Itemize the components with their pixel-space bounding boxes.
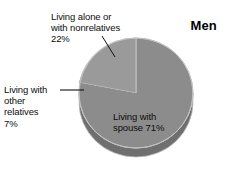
pie-label-living-alone: Living alone or with nonrelatives 22% bbox=[51, 11, 155, 45]
pie-chart-figure: Living alone or with nonrelatives 22% Li… bbox=[0, 0, 229, 173]
pie-label-living-with-spouse: Living with spouse 71% bbox=[113, 111, 191, 133]
pie-label-other-relatives: Living with other relatives 7% bbox=[4, 84, 66, 129]
chart-title: Men bbox=[190, 18, 217, 33]
